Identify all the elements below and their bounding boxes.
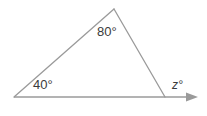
geometry-figure: 40° 80° z° bbox=[0, 0, 207, 116]
triangle-left-side bbox=[14, 9, 114, 97]
angle-label-apex: 80° bbox=[97, 25, 117, 38]
triangle-diagram-svg bbox=[0, 0, 207, 116]
triangle-right-side bbox=[114, 9, 165, 97]
angle-label-left: 40° bbox=[33, 78, 53, 91]
arrow-right-icon bbox=[186, 93, 198, 102]
angle-label-exterior: z° bbox=[172, 79, 183, 91]
